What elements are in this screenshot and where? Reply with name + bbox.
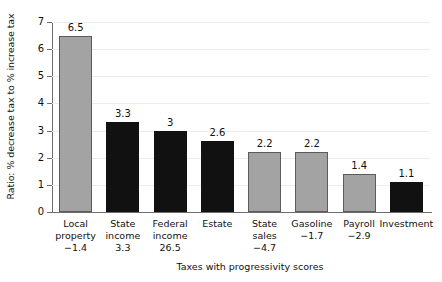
x-axis-title: Taxes with progressivity scores [150, 261, 350, 272]
y-tick-label: 3 [30, 126, 44, 136]
bar [343, 174, 376, 212]
y-tick-label: 7 [30, 17, 44, 27]
x-category-label: Estate [190, 218, 244, 230]
bar [390, 182, 423, 212]
progressivity-score: −2.9 [332, 230, 386, 242]
x-category-label-line: income [96, 230, 150, 242]
x-category-label-line: State [238, 218, 292, 230]
bar [154, 131, 187, 212]
bar-value-label: 1.1 [386, 169, 426, 179]
gridline [52, 49, 430, 50]
y-tick-label: 0 [30, 207, 44, 217]
bar [295, 152, 328, 212]
y-axis-title: Ratio: % decrease tax to % increase tax [0, 0, 20, 212]
bar [59, 36, 92, 212]
y-tick-label: 5 [30, 71, 44, 81]
x-category-label: Gasoline−1.7 [285, 218, 339, 242]
x-category-label: Federalincome26.5 [143, 218, 197, 254]
x-axis-line [52, 212, 432, 213]
y-tick-mark [47, 131, 52, 132]
y-tick-label: 4 [30, 98, 44, 108]
x-category-label-line: Local [49, 218, 103, 230]
progressivity-score: 26.5 [143, 242, 197, 254]
bar-value-label: 2.2 [245, 139, 285, 149]
bar-value-label: 1.4 [339, 161, 379, 171]
y-tick-mark [47, 49, 52, 50]
progressivity-score: −1.4 [49, 242, 103, 254]
x-category-label-line: Gasoline [285, 218, 339, 230]
x-category-label-line: income [143, 230, 197, 242]
x-category-label: Payroll−2.9 [332, 218, 386, 242]
bar [201, 141, 234, 212]
gridline [52, 76, 430, 77]
y-tick-mark [47, 76, 52, 77]
x-category-label: Localproperty−1.4 [49, 218, 103, 254]
bar-chart: Ratio: % decrease tax to % increase tax … [0, 0, 442, 282]
x-category-label-line: Payroll [332, 218, 386, 230]
x-category-label: Investment [379, 218, 433, 230]
bar [106, 122, 139, 212]
bar [248, 152, 281, 212]
y-tick-label: 6 [30, 44, 44, 54]
x-category-label-line: Investment [379, 218, 433, 230]
progressivity-score: 3.3 [96, 242, 150, 254]
x-category-label-line: Federal [143, 218, 197, 230]
gridline [52, 22, 430, 23]
y-tick-mark [47, 103, 52, 104]
bar-value-label: 6.5 [56, 23, 96, 33]
bar-value-label: 3 [150, 118, 190, 128]
y-tick-label: 1 [30, 180, 44, 190]
y-tick-label: 2 [30, 153, 44, 163]
progressivity-score: −1.7 [285, 230, 339, 242]
y-axis-title-text: Ratio: % decrease tax to % increase tax [5, 13, 16, 199]
y-tick-mark [47, 22, 52, 23]
bar-value-label: 2.2 [292, 139, 332, 149]
x-category-label: Statesales−4.7 [238, 218, 292, 254]
x-category-label-line: State [96, 218, 150, 230]
bar-value-label: 2.6 [197, 128, 237, 138]
y-tick-mark [47, 158, 52, 159]
progressivity-score: −4.7 [238, 242, 292, 254]
x-category-label-line: property [49, 230, 103, 242]
y-tick-mark [47, 185, 52, 186]
bar-value-label: 3.3 [103, 109, 143, 119]
gridline [52, 103, 430, 104]
y-tick-mark [47, 212, 52, 213]
x-category-label: Stateincome3.3 [96, 218, 150, 254]
x-category-label-line: sales [238, 230, 292, 242]
x-category-label-line: Estate [190, 218, 244, 230]
